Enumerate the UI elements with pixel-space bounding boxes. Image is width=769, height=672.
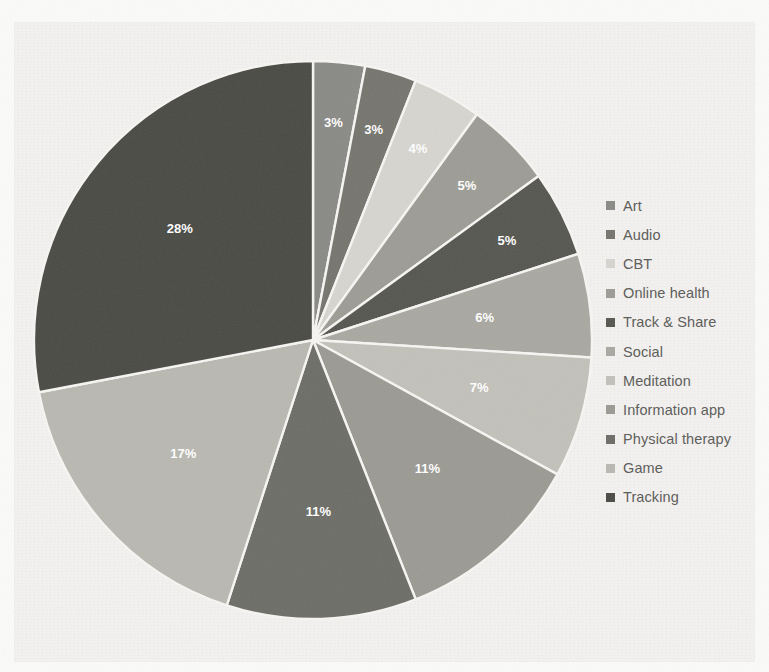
legend-item-label: Social [623,344,663,360]
legend-item[interactable]: Meditation [606,366,766,395]
legend-swatch-icon [606,201,615,210]
legend-item-label: Meditation [623,373,691,389]
legend-swatch-icon [606,493,615,502]
legend-item-label: Tracking [623,489,679,505]
legend-item[interactable]: CBT [606,249,766,278]
pie-slice-label: 28% [167,221,193,236]
legend-item[interactable]: Online health [606,279,766,308]
pie-chart-page: 3%3%4%5%5%6%7%11%11%17%28% ArtAudioCBTOn… [0,0,769,672]
legend-swatch-icon [606,435,615,444]
legend-item[interactable]: Art [606,191,766,220]
pie-slice-label: 3% [324,115,343,130]
legend-swatch-icon [606,230,615,239]
legend-item-label: Online health [623,285,710,301]
legend-swatch-icon [606,376,615,385]
legend-item-label: Track & Share [623,314,716,330]
legend-swatch-icon [606,347,615,356]
pie-slice-label: 6% [475,310,494,325]
legend-item[interactable]: Social [606,337,766,366]
pie-slice-label: 5% [457,178,476,193]
legend-item[interactable]: Game [606,454,766,483]
legend-item[interactable]: Physical therapy [606,425,766,454]
legend-swatch-icon [606,318,615,327]
legend-item[interactable]: Audio [606,220,766,249]
chart-legend: ArtAudioCBTOnline healthTrack & ShareSoc… [606,191,766,512]
pie-slice-label: 11% [306,504,332,519]
pie-slice-label: 7% [470,380,489,395]
legend-item[interactable]: Information app [606,395,766,424]
legend-item-label: Information app [623,402,725,418]
legend-item-label: Physical therapy [623,431,731,447]
pie-slice-label: 4% [408,141,427,156]
legend-swatch-icon [606,405,615,414]
legend-swatch-icon [606,289,615,298]
pie-slice-label: 5% [498,233,517,248]
legend-item-label: Game [623,460,663,476]
legend-item[interactable]: Tracking [606,483,766,512]
pie-slice-label: 11% [415,461,441,476]
legend-item-label: CBT [623,256,652,272]
pie-slice-label: 17% [170,446,196,461]
legend-swatch-icon [606,464,615,473]
legend-swatch-icon [606,259,615,268]
legend-item-label: Art [623,198,642,214]
pie-slice-label: 3% [364,122,383,137]
legend-item-label: Audio [623,227,661,243]
legend-item[interactable]: Track & Share [606,308,766,337]
